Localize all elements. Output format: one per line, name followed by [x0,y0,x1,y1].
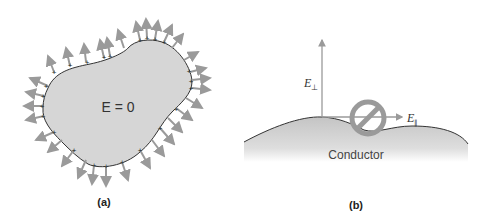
svg-text:+: + [102,53,107,62]
figure: + + + + + + + + + + + + + + + + + + + + … [0,0,488,218]
par-field-label: E∥ [406,111,418,127]
svg-text:+: + [68,61,73,70]
svg-text:+: + [72,146,77,155]
svg-text:+: + [40,102,45,111]
perp-field-label: E⊥ [303,76,318,92]
svg-text:+: + [92,161,97,170]
svg-text:+: + [145,34,150,43]
svg-text:+: + [158,124,163,133]
svg-text:+: + [153,35,158,44]
svg-text:+: + [138,146,143,155]
caption-a: (a) [97,196,111,208]
conductor-label: Conductor [328,148,383,162]
svg-text:+: + [41,92,46,101]
svg-text:+: + [162,38,167,47]
svg-text:+: + [120,158,125,167]
caption-b: (b) [349,199,363,211]
panel-b: E⊥ E∥ Conductor (b) [244,40,468,211]
svg-text:+: + [189,84,194,93]
panel-a: + + + + + + + + + + + + + + + + + + + + … [24,19,210,208]
svg-text:+: + [138,36,143,45]
svg-text:+: + [52,128,57,137]
svg-text:+: + [52,68,57,77]
prohibited-icon [352,102,384,134]
svg-text:+: + [44,82,49,91]
svg-text:+: + [104,162,109,171]
svg-text:+: + [187,67,192,76]
svg-text:+: + [85,58,90,67]
svg-text:+: + [108,52,113,61]
field-inside-label: E = 0 [101,99,134,115]
svg-text:+: + [174,105,179,114]
svg-text:+: + [41,112,46,121]
